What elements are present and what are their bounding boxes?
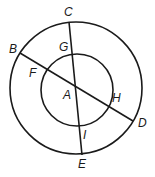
label-d: D (138, 116, 147, 130)
label-a: A (62, 88, 71, 102)
label-e: E (78, 157, 87, 171)
line-bd (20, 53, 133, 121)
inner-circle (41, 54, 113, 126)
label-h: H (112, 91, 121, 105)
label-i: I (83, 128, 87, 142)
label-f: F (29, 66, 37, 80)
label-g: G (59, 40, 68, 54)
geometry-diagram: C B G F A H D I E (0, 0, 155, 177)
label-c: C (64, 5, 73, 19)
label-b: B (9, 42, 17, 56)
